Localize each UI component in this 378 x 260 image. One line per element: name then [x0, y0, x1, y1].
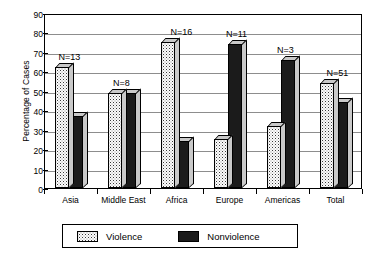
bar-front-face [161, 42, 175, 188]
legend-item-nonviolence: Nonviolence [178, 231, 259, 242]
x-axis-tick-mark [256, 189, 257, 194]
x-axis-tick-mark [150, 189, 151, 194]
x-axis-label-middle-east: Middle East [101, 195, 145, 205]
y-axis-tick-label: 10 [9, 166, 43, 176]
y-axis-tick-label: 30 [9, 127, 43, 137]
y-axis-tick-label: 40 [9, 107, 43, 117]
legend-swatch-nonviolence-icon [178, 231, 199, 242]
bar-front-face [214, 139, 228, 188]
bar-group [310, 15, 363, 188]
bar-front-face [320, 83, 334, 188]
n-label: N=3 [277, 45, 294, 55]
x-axis-tick-mark [362, 189, 363, 194]
bar-side-face [83, 112, 88, 188]
bar-side-face [122, 88, 127, 188]
y-axis-tick-label: 0 [9, 185, 43, 195]
n-label: N=51 [327, 68, 349, 78]
bar-side-face [189, 137, 194, 188]
x-axis-tick-mark [309, 189, 310, 194]
x-axis-tick-mark [203, 189, 204, 194]
bar-front-face [108, 93, 122, 188]
bar-group [98, 15, 151, 188]
x-axis-tick-mark [44, 189, 45, 194]
x-axis-tick-mark [97, 189, 98, 194]
legend-label-nonviolence: Nonviolence [207, 231, 259, 242]
bar-violence-total [320, 79, 334, 188]
n-label: N=11 [226, 29, 247, 39]
x-axis-label-total: Total [327, 195, 345, 205]
bar-side-face [175, 38, 180, 188]
y-axis-tick-label: 90 [9, 10, 43, 20]
bar-side-face [228, 135, 233, 188]
bar-side-face [281, 121, 286, 188]
bar-side-face [69, 63, 74, 188]
legend-swatch-violence-icon [77, 231, 98, 242]
y-axis-tick-label: 80 [9, 29, 43, 39]
bar-group [204, 15, 257, 188]
bar-side-face [348, 98, 353, 188]
bar-chart: Percentage of Cases 9080706050403020100 … [0, 0, 378, 260]
bar-group [45, 15, 98, 188]
x-axis-label-africa: Africa [166, 195, 188, 205]
bar-front-face [55, 67, 69, 188]
bar-group [257, 15, 310, 188]
bar-side-face [242, 40, 247, 188]
bar-violence-asia [55, 63, 69, 188]
bar-side-face [136, 88, 141, 188]
bar-violence-middle-east [108, 89, 122, 188]
chart-legend: Violence Nonviolence [62, 224, 298, 248]
x-axis-label-asia: Asia [62, 195, 79, 205]
legend-label-violence: Violence [106, 231, 142, 242]
bar-side-face [295, 55, 300, 188]
plot-area: 9080706050403020100 N=13N=8N=16N=11N=3N=… [44, 14, 362, 189]
x-axis-label-americas: Americas [265, 195, 300, 205]
x-axis: AsiaMiddle EastAfricaEuropeAmericasTotal [44, 189, 366, 211]
y-axis-tick-label: 70 [9, 49, 43, 59]
bar-front-face [267, 126, 281, 188]
legend-item-violence: Violence [77, 231, 142, 242]
n-label: N=16 [171, 27, 193, 37]
bar-violence-americas [267, 122, 281, 188]
bar-side-face [334, 78, 339, 188]
n-label: N=8 [113, 78, 130, 88]
y-axis-tick-label: 20 [9, 146, 43, 156]
y-axis-tick-label: 60 [9, 68, 43, 78]
n-label: N=13 [59, 52, 81, 62]
bar-series-container [45, 15, 361, 188]
bar-violence-africa [161, 38, 175, 188]
bar-group [151, 15, 204, 188]
x-axis-label-europe: Europe [216, 195, 243, 205]
bar-violence-europe [214, 135, 228, 188]
y-axis-tick-label: 50 [9, 88, 43, 98]
